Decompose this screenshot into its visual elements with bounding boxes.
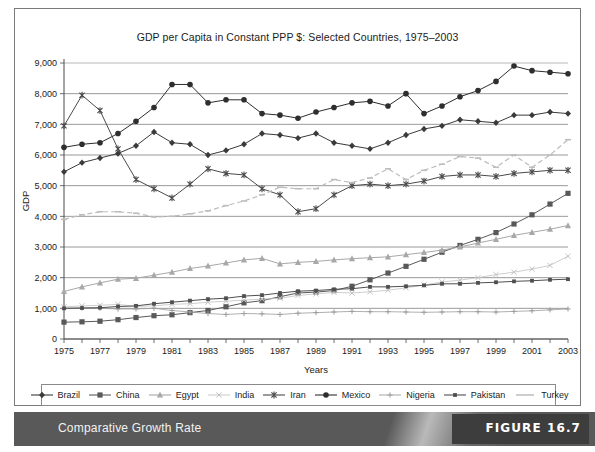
data-point-marker xyxy=(296,289,300,293)
data-point-marker xyxy=(421,257,426,262)
data-point-marker xyxy=(475,118,481,124)
legend-item-egypt[interactable]: Egypt xyxy=(147,389,199,401)
data-point-marker xyxy=(133,176,138,183)
legend-item-nigeria[interactable]: Nigeria xyxy=(377,389,435,401)
data-point-marker xyxy=(323,392,329,398)
x-axis-tick-label: 1979 xyxy=(126,346,146,356)
legend-label: China xyxy=(116,390,140,400)
data-point-marker xyxy=(79,319,84,324)
data-point-marker xyxy=(79,159,85,165)
data-point-marker xyxy=(386,285,390,289)
data-point-marker xyxy=(97,155,103,161)
legend-label: Pakistan xyxy=(471,390,506,400)
figure-caption: Comparative Growth Rate xyxy=(58,421,201,435)
data-point-marker xyxy=(385,309,390,314)
y-axis-tick-label: 7,000 xyxy=(34,120,57,130)
data-point-marker xyxy=(187,141,193,147)
data-point-marker xyxy=(313,130,319,136)
data-point-marker xyxy=(259,130,265,136)
data-point-marker xyxy=(511,309,516,314)
legend-item-brazil[interactable]: Brazil xyxy=(29,389,81,401)
x-axis-title: Years xyxy=(304,364,328,375)
data-point-marker xyxy=(385,103,391,109)
figure-number-label: FIGURE 16.7 xyxy=(485,421,581,435)
data-point-marker xyxy=(458,282,462,286)
data-point-marker xyxy=(493,79,499,85)
data-point-marker xyxy=(439,123,445,129)
legend-item-iran[interactable]: Iran xyxy=(261,389,306,401)
data-point-marker xyxy=(439,309,444,314)
data-point-marker xyxy=(421,310,426,315)
data-point-marker xyxy=(295,115,301,121)
data-point-marker xyxy=(259,255,265,261)
data-point-marker xyxy=(61,145,67,151)
legend-item-china[interactable]: China xyxy=(87,389,140,401)
data-point-marker xyxy=(278,291,282,295)
legend-item-pakistan[interactable]: Pakistan xyxy=(442,389,506,401)
data-point-marker xyxy=(512,279,516,283)
legend-item-india[interactable]: India xyxy=(206,389,255,401)
legend-item-turkey[interactable]: Turkey xyxy=(512,389,568,401)
data-point-marker xyxy=(367,99,373,105)
y-axis-tick-label: 8,000 xyxy=(34,89,57,99)
x-axis-tick-label: 1987 xyxy=(270,346,290,356)
data-point-marker xyxy=(529,212,534,217)
data-point-marker xyxy=(367,277,372,282)
series-line xyxy=(64,112,568,172)
data-point-marker xyxy=(331,105,337,111)
data-point-marker xyxy=(223,304,228,309)
data-point-marker xyxy=(565,71,571,77)
figure-frame: GDP per Capita in Constant PPP $: Select… xyxy=(14,8,581,406)
data-point-marker xyxy=(188,299,192,303)
x-axis-tick-label: 1989 xyxy=(306,346,326,356)
legend-marker-asterisk-icon xyxy=(261,389,287,401)
data-point-marker xyxy=(259,185,264,192)
legend-item-mexico[interactable]: Mexico xyxy=(313,389,371,401)
series-brazil xyxy=(61,109,571,175)
data-point-marker xyxy=(547,109,553,115)
data-point-marker xyxy=(61,320,66,325)
data-point-marker xyxy=(260,293,264,297)
y-axis-title: GDP xyxy=(20,191,31,212)
data-point-marker xyxy=(457,117,463,123)
data-point-marker xyxy=(39,392,45,398)
data-point-marker xyxy=(349,143,355,149)
legend-marker-circle-icon xyxy=(313,389,339,401)
data-point-marker xyxy=(151,105,157,111)
data-point-marker xyxy=(241,300,246,305)
legend-marker-diamond-icon xyxy=(29,389,55,401)
data-point-marker xyxy=(133,315,138,320)
legend-label: Turkey xyxy=(541,390,568,400)
data-point-marker xyxy=(331,140,337,146)
legend-label: Iran xyxy=(290,390,306,400)
data-point-marker xyxy=(511,63,517,69)
data-point-marker xyxy=(547,201,552,206)
data-point-marker xyxy=(403,309,408,314)
data-point-marker xyxy=(457,94,463,100)
data-point-marker xyxy=(62,306,66,310)
data-point-marker xyxy=(151,185,156,192)
data-point-marker xyxy=(421,111,427,117)
data-point-marker xyxy=(97,140,103,146)
data-point-marker xyxy=(368,285,372,289)
data-point-marker xyxy=(475,309,480,314)
data-point-marker xyxy=(115,317,120,322)
data-point-marker xyxy=(565,222,571,228)
data-point-marker xyxy=(529,112,535,118)
data-point-marker xyxy=(457,309,462,314)
legend-label: Mexico xyxy=(342,390,371,400)
data-point-marker xyxy=(475,88,481,94)
x-axis-tick-label: 2003 xyxy=(558,346,578,356)
data-point-marker xyxy=(169,82,175,88)
data-point-marker xyxy=(367,309,372,314)
legend-marker-dash-light-icon xyxy=(512,389,538,401)
y-axis-tick-label: 1,000 xyxy=(34,304,57,314)
x-axis-tick-label: 1977 xyxy=(90,346,110,356)
data-point-marker xyxy=(61,169,67,175)
data-point-marker xyxy=(350,287,354,291)
data-point-marker xyxy=(152,302,156,306)
data-point-marker xyxy=(565,254,570,259)
data-point-marker xyxy=(223,147,229,153)
data-point-marker xyxy=(116,305,120,309)
figure-page: GDP per Capita in Constant PPP $: Select… xyxy=(0,0,595,452)
